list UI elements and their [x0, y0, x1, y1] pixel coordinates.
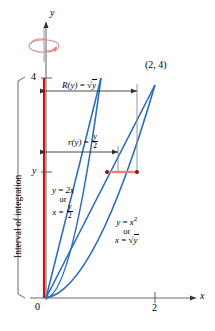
line-equation-secondary: x = y 2	[52, 204, 74, 222]
inner-radius-denominator: 2	[92, 141, 98, 150]
parabola-equation-label: y = x2 or x = √y	[115, 216, 139, 245]
line-eq-lhs: y	[52, 185, 56, 195]
inner-radius-fraction: y 2	[92, 133, 98, 151]
line-eq2-fraction: y 2	[67, 203, 73, 221]
interval-of-integration-label: Interval of integration	[13, 175, 23, 258]
inner-radius-label: r(y) = y 2	[68, 134, 99, 152]
line-eq2-equals: =	[59, 206, 64, 216]
x-tick-label-2: 2	[152, 303, 157, 313]
washer-slice-right-endpoint	[135, 170, 139, 174]
parabola-eq-lhs: y	[116, 217, 120, 227]
y-axis-label: y	[50, 8, 54, 18]
axis-of-revolution-arrow-icon	[29, 28, 59, 62]
line-eq2-denominator: 2	[67, 211, 73, 220]
line-equation-label: y = 2x or x = y 2	[52, 186, 74, 221]
parabola-sqrt-icon: √	[129, 235, 134, 245]
x-axis-label: x	[200, 291, 204, 301]
parabola-equation-secondary: x = √y	[115, 236, 139, 245]
y-tick-label-y: y	[32, 166, 36, 176]
line-eq2-numerator: y	[67, 203, 73, 211]
inner-radius-numerator: y	[92, 133, 98, 141]
parabola-eq2-lhs: x	[115, 235, 119, 245]
parabola-eq2-value: y	[134, 234, 139, 245]
line-eq2-lhs: x	[52, 206, 56, 216]
outer-radius-symbol: R(y)	[62, 80, 78, 90]
outer-radius-label: R(y) = √y	[62, 81, 97, 90]
inner-radius-equals: =	[84, 137, 89, 147]
outer-radius-value: y	[92, 79, 97, 90]
curve-cap	[101, 78, 155, 85]
parabola-eq-exponent: 2	[134, 215, 138, 223]
outer-radius-equals: =	[80, 80, 85, 90]
axis-lines	[30, 22, 196, 300]
washer-method-figure: y x 0 4 y 2 Interval of integration (2, …	[0, 0, 215, 331]
y-tick-label-4: 4	[31, 72, 36, 82]
measurement-guide-lines	[118, 84, 137, 172]
point-label-2-4: (2, 4)	[145, 60, 167, 70]
parabola-eq2-equals: =	[121, 235, 126, 245]
washer-slice-left-endpoint	[105, 170, 109, 174]
inner-radius-symbol: r(y)	[68, 137, 82, 147]
origin-label: 0	[35, 302, 40, 312]
